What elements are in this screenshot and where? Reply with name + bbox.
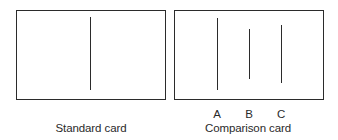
line-label-b: B: [245, 108, 253, 120]
comparison-line-c: [281, 25, 283, 83]
comparison-line-a: [217, 18, 219, 90]
line-label-a: A: [213, 108, 221, 120]
standard-line: [90, 17, 92, 90]
line-label-c: C: [277, 108, 285, 120]
comparison-line-b: [249, 29, 251, 79]
standard-card-caption: Standard card: [56, 122, 127, 134]
comparison-card-caption: Comparison card: [205, 122, 291, 134]
